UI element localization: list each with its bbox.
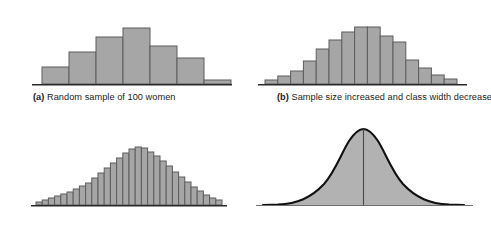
bar bbox=[36, 202, 42, 205]
bar bbox=[48, 198, 54, 205]
bar bbox=[191, 187, 197, 205]
bar bbox=[367, 27, 380, 84]
bar bbox=[444, 79, 457, 84]
bar bbox=[380, 36, 393, 84]
bar bbox=[197, 191, 203, 205]
histogram-a bbox=[0, 0, 245, 92]
histogram-b bbox=[245, 0, 491, 92]
bar bbox=[98, 173, 104, 205]
bar bbox=[92, 178, 98, 205]
bar bbox=[141, 148, 147, 205]
panel-b: (b) Sample size increased and class widt… bbox=[245, 0, 491, 121]
bar bbox=[185, 182, 191, 205]
bar bbox=[73, 189, 79, 205]
bar bbox=[96, 37, 123, 84]
bar bbox=[329, 40, 342, 84]
bar bbox=[135, 147, 141, 205]
bar bbox=[406, 60, 419, 84]
bar bbox=[419, 68, 432, 84]
bar bbox=[355, 27, 368, 84]
bar bbox=[342, 32, 355, 84]
bar bbox=[67, 192, 73, 205]
panel-c: (c) Sample size increased and class widt… bbox=[0, 121, 245, 243]
caption-b: (b) Sample size increased and class widt… bbox=[277, 92, 491, 104]
bar bbox=[79, 186, 85, 205]
panel-a: (a) Random sample of 100 women bbox=[0, 0, 245, 121]
four-panel-distribution-figure: (a) Random sample of 100 women bbox=[0, 0, 491, 243]
bar bbox=[117, 158, 123, 205]
bar bbox=[42, 67, 69, 84]
bar bbox=[179, 177, 185, 205]
bar bbox=[177, 58, 204, 84]
bar bbox=[291, 71, 304, 84]
panel-d: (d) Normal distribution for the populati… bbox=[245, 121, 491, 243]
bar bbox=[216, 200, 222, 205]
bar bbox=[129, 149, 135, 205]
caption-b-tag: (b) bbox=[277, 92, 289, 102]
bar bbox=[316, 49, 329, 84]
bar bbox=[160, 161, 166, 205]
caption-a-tag: (a) bbox=[33, 92, 44, 102]
bar bbox=[104, 168, 110, 205]
bar bbox=[42, 200, 48, 205]
bar bbox=[110, 163, 116, 205]
histogram-a-bars bbox=[42, 28, 231, 84]
bar bbox=[278, 76, 291, 84]
histogram-c bbox=[0, 121, 245, 213]
bar bbox=[431, 75, 444, 84]
bar bbox=[148, 152, 154, 205]
normal-curve-d bbox=[245, 121, 491, 213]
bar bbox=[61, 194, 67, 205]
bar bbox=[123, 28, 150, 84]
bar bbox=[166, 166, 172, 205]
caption-a-text: Random sample of 100 women bbox=[47, 92, 175, 102]
bar bbox=[172, 172, 178, 205]
bar bbox=[203, 195, 209, 205]
bar bbox=[55, 196, 61, 205]
bar bbox=[150, 46, 177, 84]
histogram-b-bars bbox=[265, 27, 457, 84]
bar bbox=[210, 198, 216, 205]
bar bbox=[204, 80, 231, 84]
bar bbox=[303, 61, 316, 84]
bar bbox=[393, 42, 406, 84]
bar bbox=[123, 153, 129, 205]
caption-b-text: Sample size increased and class width de… bbox=[292, 92, 491, 102]
bar bbox=[265, 80, 278, 84]
bar bbox=[69, 52, 96, 84]
histogram-c-bars bbox=[36, 147, 222, 205]
bar bbox=[154, 156, 160, 205]
caption-a: (a) Random sample of 100 women bbox=[33, 92, 278, 104]
bar bbox=[86, 183, 92, 205]
